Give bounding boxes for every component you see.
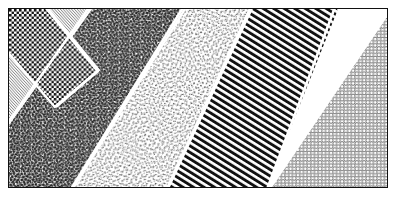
pattern-figure — [0, 0, 395, 198]
pattern-canvas — [9, 9, 387, 187]
figure-plate — [8, 8, 388, 188]
